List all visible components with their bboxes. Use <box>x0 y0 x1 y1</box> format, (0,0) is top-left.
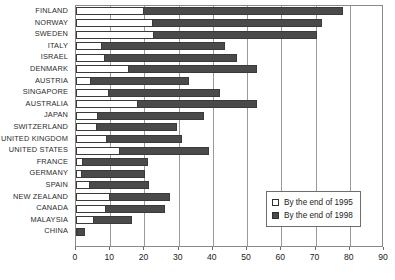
bar-row <box>76 64 384 76</box>
bar-row <box>76 145 384 157</box>
category-label: AUSTRALIA <box>0 98 72 110</box>
axis-tick <box>383 247 384 250</box>
bar-segment-1995 <box>76 181 90 189</box>
bar-segment-1995 <box>76 54 105 62</box>
bar-segment-1995 <box>76 89 109 97</box>
bar-row <box>76 99 384 111</box>
category-axis: FINLANDNORWAYSWEDENITALYISRAELDENMARKAUS… <box>0 5 72 237</box>
axis-tick-label: 40 <box>207 252 217 262</box>
category-label: DENMARK <box>0 63 72 75</box>
category-label: SWEDEN <box>0 28 72 40</box>
bar-segment-1995 <box>76 170 82 178</box>
bar-row <box>76 122 384 134</box>
category-label: UNITED STATES <box>0 144 72 156</box>
category-label: NORWAY <box>0 17 72 29</box>
axis-tick <box>315 247 316 250</box>
axis-tick-label: 70 <box>310 252 320 262</box>
category-label: SINGAPORE <box>0 86 72 98</box>
category-label: FINLAND <box>0 5 72 17</box>
axis-tick-label: 20 <box>139 252 149 262</box>
value-axis: 0102030405060708090 <box>75 247 383 269</box>
legend-item: By the end of 1998 <box>272 209 353 222</box>
category-label: NEW ZEALAND <box>0 191 72 203</box>
bar-segment-1998 <box>76 158 148 166</box>
bar-row <box>76 180 384 192</box>
category-label: MALAYSIA <box>0 214 72 226</box>
bar-segment-1998 <box>76 77 189 85</box>
bar-segment-1995 <box>76 100 138 108</box>
axis-tick <box>178 247 179 250</box>
bar-row <box>76 110 384 122</box>
category-label: UNITED KINGDOM <box>0 133 72 145</box>
axis-tick-label: 30 <box>173 252 183 262</box>
category-label: FRANCE <box>0 156 72 168</box>
category-label: CANADA <box>0 202 72 214</box>
axis-tick <box>75 247 76 250</box>
axis-tick <box>109 247 110 250</box>
legend-label: By the end of 1995 <box>284 198 353 207</box>
category-label: GERMANY <box>0 167 72 179</box>
category-label: ISRAEL <box>0 51 72 63</box>
bar-chart: FINLANDNORWAYSWEDENITALYISRAELDENMARKAUS… <box>0 0 395 280</box>
dark-square-icon <box>272 212 279 219</box>
bar-row <box>76 134 384 146</box>
category-label: ITALY <box>0 40 72 52</box>
bar-segment-1995 <box>76 158 83 166</box>
bar-segment-1995 <box>76 205 106 213</box>
axis-tick <box>143 247 144 250</box>
bar-segment-1995 <box>76 193 110 201</box>
bar-segment-1995 <box>76 135 107 143</box>
bar-segment-1995 <box>76 77 91 85</box>
bar-row <box>76 52 384 64</box>
bar-row <box>76 157 384 169</box>
axis-tick-label: 0 <box>73 252 78 262</box>
bar-segment-1995 <box>76 112 98 120</box>
category-label: SWITZERLAND <box>0 121 72 133</box>
bar-segment-1995 <box>76 19 153 27</box>
category-label: JAPAN <box>0 109 72 121</box>
bar-segment-1995 <box>76 7 144 15</box>
bar-row <box>76 226 384 238</box>
axis-tick <box>246 247 247 250</box>
axis-tick-label: 80 <box>344 252 354 262</box>
axis-tick <box>349 247 350 250</box>
axis-tick-label: 10 <box>104 252 114 262</box>
legend-label: By the end of 1998 <box>284 211 353 220</box>
bar-segment-1995 <box>76 123 97 131</box>
bar-row <box>76 18 384 30</box>
bar-row <box>76 6 384 18</box>
category-label: AUSTRIA <box>0 75 72 87</box>
legend-item: By the end of 1995 <box>272 196 353 209</box>
axis-tick-label: 90 <box>378 252 388 262</box>
category-label: CHINA <box>0 225 72 237</box>
bar-segment-1995 <box>76 42 102 50</box>
axis-tick-label: 60 <box>276 252 286 262</box>
bar-row <box>76 87 384 99</box>
axis-tick <box>280 247 281 250</box>
bar-segment-1995 <box>76 228 78 236</box>
bar-segment-1995 <box>76 216 94 224</box>
bar-segment-1995 <box>76 65 129 73</box>
bar-row <box>76 41 384 53</box>
bar-segment-1995 <box>76 31 154 39</box>
axis-tick <box>212 247 213 250</box>
bar-row <box>76 76 384 88</box>
bar-row <box>76 168 384 180</box>
category-label: SPAIN <box>0 179 72 191</box>
bar-segment-1998 <box>76 170 145 178</box>
chart-legend: By the end of 1995By the end of 1998 <box>266 191 361 227</box>
bar-row <box>76 29 384 41</box>
white-square-icon <box>272 199 279 206</box>
axis-tick-label: 50 <box>241 252 251 262</box>
bar-segment-1995 <box>76 147 120 155</box>
